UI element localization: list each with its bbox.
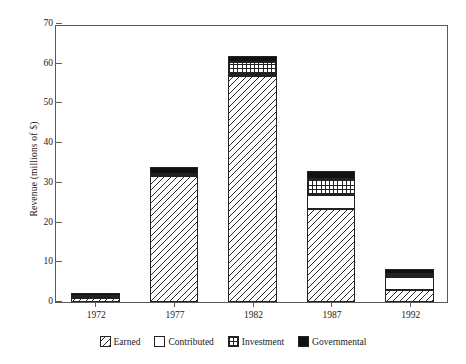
- bar-segment-contributed-1992: [385, 277, 434, 290]
- y-tick: 40: [56, 142, 62, 143]
- bar-segment-governmental-1977: [150, 167, 199, 174]
- legend-item-earned: Earned: [100, 336, 141, 347]
- y-tick: 30: [56, 182, 62, 183]
- x-tick-label: 1992: [401, 310, 420, 320]
- x-tick: 1982: [253, 302, 254, 307]
- y-tick-label: 40: [44, 137, 54, 147]
- x-tick: 1987: [331, 302, 332, 307]
- bar-segment-earned-1987: [307, 209, 356, 302]
- y-tick: 0: [56, 301, 62, 302]
- chart-legend: EarnedContributedInvestmentGovernmental: [0, 336, 466, 347]
- y-tick: 60: [56, 63, 62, 64]
- legend-swatch-earned-icon: [100, 336, 111, 347]
- x-tick-label: 1972: [87, 310, 106, 320]
- bar-1982: [228, 24, 277, 302]
- bar-1972: [71, 24, 120, 302]
- bar-segment-governmental-1972: [71, 293, 120, 295]
- bar-segment-contributed-1982: [228, 74, 277, 76]
- x-tick-label: 1987: [323, 310, 342, 320]
- bar-1987: [307, 24, 356, 302]
- legend-swatch-investment-icon: [228, 336, 239, 347]
- bar-segment-investment-1992: [385, 274, 434, 278]
- legend-swatch-governmental-icon: [298, 336, 309, 347]
- y-tick-label: 30: [44, 177, 54, 187]
- bar-segment-governmental-1982: [228, 56, 277, 62]
- y-tick-label: 20: [44, 217, 54, 227]
- bar-1992: [385, 24, 434, 302]
- legend-swatch-contributed-icon: [154, 336, 165, 347]
- y-tick: 10: [56, 261, 62, 262]
- bar-segment-contributed-1987: [307, 195, 356, 209]
- y-tick: 50: [56, 102, 62, 103]
- y-tick: 70: [56, 23, 62, 24]
- legend-item-governmental: Governmental: [298, 336, 366, 347]
- revenue-stacked-bar-chart: Revenue (millions of $) 010203040506070 …: [0, 0, 466, 364]
- x-tick: 1972: [95, 302, 96, 307]
- y-tick-label: 10: [44, 256, 54, 266]
- legend-item-contributed: Contributed: [154, 336, 213, 347]
- y-axis-title: Revenue (millions of $): [29, 59, 39, 279]
- bar-1977: [150, 24, 199, 302]
- y-tick-label: 70: [44, 18, 54, 28]
- x-tick-label: 1982: [244, 310, 263, 320]
- x-tick: 1992: [410, 302, 411, 307]
- legend-item-investment: Investment: [228, 336, 284, 347]
- plot-area: 010203040506070 19721977198219871992: [55, 25, 448, 303]
- legend-label: Earned: [114, 337, 141, 347]
- bar-segment-earned-1982: [228, 76, 277, 302]
- legend-label: Investment: [242, 337, 284, 347]
- bar-segment-earned-1972: [71, 298, 120, 302]
- y-tick: 20: [56, 222, 62, 223]
- bar-segment-governmental-1987: [307, 171, 356, 179]
- y-tick-label: 0: [48, 296, 53, 306]
- x-tick: 1977: [174, 302, 175, 307]
- bar-segment-earned-1992: [385, 290, 434, 302]
- legend-label: Contributed: [168, 337, 213, 347]
- x-tick-label: 1977: [165, 310, 184, 320]
- bar-segment-investment-1987: [307, 179, 356, 195]
- legend-label: Governmental: [312, 337, 366, 347]
- y-tick-label: 60: [44, 58, 54, 68]
- bar-segment-governmental-1992: [385, 269, 434, 274]
- bar-segment-investment-1982: [228, 62, 277, 74]
- bar-segment-earned-1977: [150, 176, 199, 302]
- y-tick-label: 50: [44, 97, 54, 107]
